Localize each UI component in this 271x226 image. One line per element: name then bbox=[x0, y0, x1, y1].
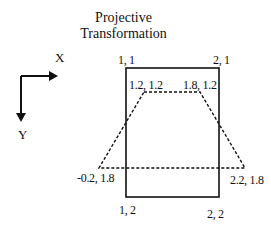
x-arrowhead-icon bbox=[49, 71, 58, 81]
quad-corner-label-bl: -0.2, 1.8 bbox=[77, 172, 114, 184]
square-corner-label-br: 2, 2 bbox=[207, 208, 224, 220]
diagram-canvas bbox=[0, 0, 271, 226]
y-arrowhead-icon bbox=[16, 113, 26, 122]
axis-arrows bbox=[16, 71, 58, 122]
square-corner-label-tr: 2, 1 bbox=[213, 54, 230, 66]
projected-quadrilateral bbox=[99, 92, 245, 168]
quad-corner-label-br: 2.2, 1.8 bbox=[230, 174, 264, 186]
x-axis-label: X bbox=[55, 52, 64, 64]
square-corner-label-bl: 1, 2 bbox=[119, 204, 136, 216]
square-corner-label-tl: 1, 1 bbox=[118, 54, 135, 66]
y-axis-label: Y bbox=[18, 129, 27, 141]
quad-corner-label-tr: 1.8, 1.2 bbox=[183, 79, 217, 91]
quad-corner-label-tl: 1.2, 1.2 bbox=[129, 79, 163, 91]
